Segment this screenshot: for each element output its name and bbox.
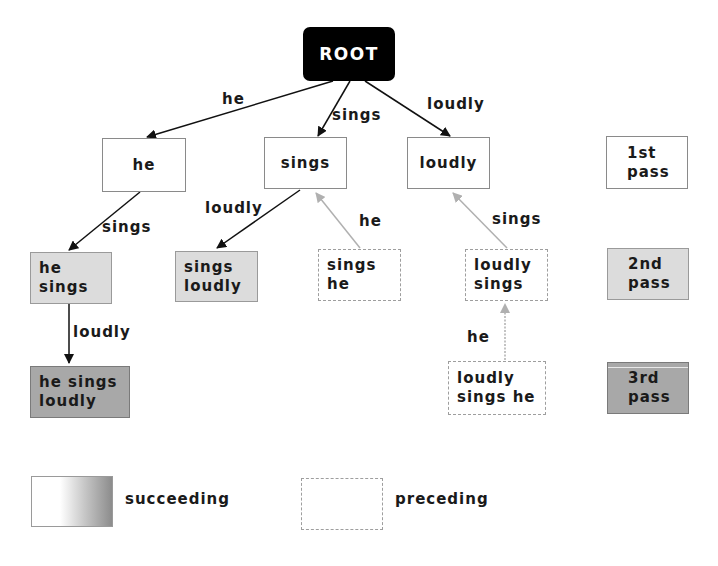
node-sings: sings [264, 137, 347, 189]
node-line: he [39, 259, 62, 278]
pass-1st: 1st pass [606, 136, 688, 189]
node-sings-he: sings he [318, 249, 401, 301]
node-he-label: he [133, 156, 156, 175]
node-line: he [327, 275, 350, 294]
node-line: sings he [457, 388, 536, 407]
edge-label-sings: sings [332, 106, 381, 124]
node-line: sings [39, 278, 88, 297]
node-line: sings [327, 256, 376, 275]
node-sings-label: sings [281, 154, 330, 173]
pass-line: 2nd [628, 255, 663, 274]
node-loudly-label: loudly [420, 154, 478, 173]
node-line: loudly [457, 369, 515, 388]
edge-label-loudly-sings: sings [492, 210, 541, 228]
edge-label-loudly-sings-he: he [467, 328, 490, 346]
edge-singshe-sings [316, 193, 360, 248]
node-line: sings [184, 258, 233, 277]
node-he: he [102, 138, 186, 192]
node-line: loudly [39, 392, 97, 411]
node-sings-loudly: sings loudly [175, 251, 258, 302]
pass-line: pass [628, 388, 671, 407]
pass-line: pass [628, 274, 671, 293]
node-he-sings: he sings [30, 252, 112, 304]
edge-label-he-sings-loudly: loudly [73, 323, 131, 341]
pass-line: 1st [627, 144, 657, 163]
legend-preceding-swatch [301, 478, 383, 530]
node-loudly-sings-he: loudly sings he [448, 361, 546, 415]
legend-preceding-label: preceding [395, 490, 489, 508]
node-line: loudly [184, 277, 242, 296]
root-label: ROOT [319, 45, 379, 64]
edge-label-he-sings: sings [102, 218, 151, 236]
pass-line: 3rd [628, 369, 660, 388]
node-line: he sings [39, 373, 118, 392]
legend-succeeding-label: succeeding [125, 490, 230, 508]
node-loudly-sings: loudly sings [465, 249, 548, 301]
edge-label-he: he [222, 90, 245, 108]
edge-label-loudly: loudly [427, 95, 485, 113]
pass-line: pass [627, 163, 670, 182]
edge-label-sings-he: he [359, 212, 382, 230]
legend-succeeding-swatch [31, 476, 113, 527]
node-line: loudly [474, 256, 532, 275]
root-node: ROOT [303, 27, 395, 81]
pass-3rd-highlight [608, 367, 688, 368]
node-he-sings-loudly: he sings loudly [30, 366, 130, 418]
pass-2nd: 2nd pass [607, 248, 689, 300]
node-line: sings [474, 275, 523, 294]
pass-3rd: 3rd pass [607, 362, 689, 414]
edge-label-sings-loudly: loudly [205, 199, 263, 217]
node-loudly: loudly [407, 137, 490, 189]
